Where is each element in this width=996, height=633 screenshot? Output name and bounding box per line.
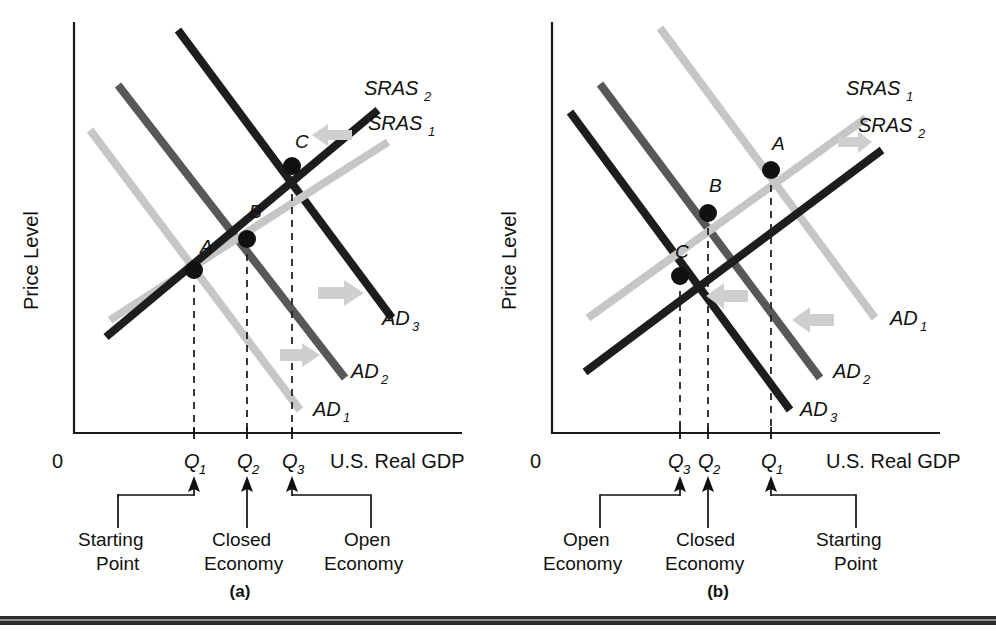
panel-a-label-ad3-sub: 3: [412, 319, 420, 334]
panel-a-label-sras1-base: SRAS: [368, 112, 423, 134]
panel-a-label-sras1-sub: 1: [428, 124, 435, 139]
panel-b-qlabel-2-base: Q: [698, 450, 714, 472]
panel-a-point-b-dot: [238, 230, 256, 248]
panel-b-qlabel-2-sub: 2: [712, 462, 721, 477]
panel-a-qlabel-3-base: Q: [282, 450, 298, 472]
panel-b-qlabel-3-base: Q: [761, 450, 777, 472]
panel-a-x-axis-label: U.S. Real GDP: [330, 450, 464, 472]
panel-a-callout-1-line1: Starting: [78, 529, 143, 550]
panel-a-callout-1-line2: Point: [96, 553, 140, 574]
panel-a-callout-2-line2: Economy: [204, 553, 284, 574]
panel-a-qlabel-1-sub: 1: [199, 462, 206, 477]
economics-diagram-svg: A B C SRAS 2 SRAS 1 AD 3 AD 2 AD 1: [0, 0, 996, 633]
panel-b-y-axis-label: Price Level: [498, 211, 520, 310]
panel-b-label-sras1-base: SRAS: [846, 77, 901, 99]
panel-a-label-ad2-base: AD: [350, 360, 379, 382]
panel-b-point-b-dot: [699, 204, 717, 222]
panel-b-origin-label: 0: [530, 450, 541, 472]
panel-b-label-ad3-sub: 3: [830, 410, 838, 425]
panel-a-origin-label: 0: [52, 450, 63, 472]
panel-a-label-ad1-sub: 1: [343, 410, 350, 425]
panel-b-point-a-dot: [762, 161, 780, 179]
panel-b-qlabel-1-base: Q: [668, 450, 684, 472]
panel-a-point-c-label: C: [295, 131, 309, 152]
panel-b-label-ad1-sub: 1: [920, 319, 927, 334]
panel-a-qlabel-2-base: Q: [237, 450, 253, 472]
panel-b-qlabel-1-sub: 3: [683, 462, 691, 477]
panel-a-callout-3-line2: Economy: [324, 553, 404, 574]
panel-a-label-sras2-base: SRAS: [364, 77, 419, 99]
panel-a-panel-label: (a): [230, 582, 251, 601]
panel-b-point-a-label: A: [771, 133, 785, 154]
panel-b-point-b-label: B: [709, 175, 722, 196]
panel-b-point-c-label: C: [675, 241, 689, 262]
panel-a-qlabel-2-sub: 2: [251, 462, 260, 477]
figure-container: A B C SRAS 2 SRAS 1 AD 3 AD 2 AD 1: [0, 0, 996, 633]
panel-b-callout-3-line1: Starting: [816, 529, 881, 550]
panel-b-x-axis-label: U.S. Real GDP: [826, 450, 960, 472]
panel-a-point-b-label: B: [249, 201, 262, 222]
panel-b-label-ad2-sub: 2: [862, 372, 871, 387]
panel-a-callout-3-line1: Open: [344, 529, 390, 550]
panel-b-callout-1-line2: Economy: [543, 553, 623, 574]
panel-b-callout-1-line1: Open: [563, 529, 609, 550]
panel-b-label-ad3-base: AD: [799, 398, 828, 420]
panel-a-point-a-dot: [185, 261, 203, 279]
panel-b-point-c-dot: [671, 267, 689, 285]
panel-b-callout-2-line1: Closed: [676, 529, 735, 550]
panel-b-qlabel-3-sub: 1: [776, 462, 783, 477]
panel-a-qlabel-3-sub: 3: [297, 462, 305, 477]
panel-a-qlabel-1-base: Q: [184, 450, 200, 472]
panel-a-label-ad1-base: AD: [312, 398, 341, 420]
panel-a-label-ad3-base: AD: [381, 307, 410, 329]
panel-a-label-sras2-sub: 2: [423, 89, 432, 104]
panel-a-point-c-dot: [283, 157, 301, 175]
panel-b-label-sras2-sub: 2: [917, 126, 926, 141]
panel-a-callout-2-line1: Closed: [212, 529, 271, 550]
panel-b-callout-3-line2: Point: [834, 553, 878, 574]
panel-b-panel-label: (b): [707, 582, 729, 601]
panel-a-point-a-label: A: [199, 236, 213, 257]
panel-b-label-sras1-sub: 1: [906, 89, 913, 104]
panel-b-label-ad2-base: AD: [832, 360, 861, 382]
panel-a-label-ad2-sub: 2: [380, 372, 389, 387]
bottom-rule: [0, 616, 996, 625]
panel-a-y-axis-label: Price Level: [20, 211, 42, 310]
panel-b-label-ad1-base: AD: [889, 307, 918, 329]
panel-b-label-sras2-base: SRAS: [858, 114, 913, 136]
panel-b-callout-2-line2: Economy: [665, 553, 745, 574]
